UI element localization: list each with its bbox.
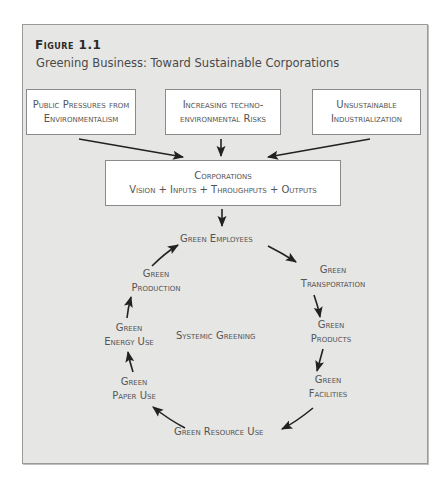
arrow-transportation-to-products bbox=[314, 295, 320, 317]
arrow-employees-to-transportation bbox=[268, 246, 296, 262]
arrow-energy-use-to-production bbox=[127, 297, 131, 318]
arrow-production-to-employees bbox=[152, 245, 178, 266]
arrow-paper-use-to-energy-use bbox=[128, 352, 133, 372]
arrow-public-to-corporations bbox=[79, 139, 183, 157]
arrow-layer bbox=[0, 0, 446, 484]
arrow-industrialization-to-corporations bbox=[268, 139, 370, 157]
arrow-products-to-facilities bbox=[317, 349, 323, 371]
arrow-facilities-to-resource-use bbox=[282, 408, 313, 429]
arrow-resource-use-to-paper-use bbox=[153, 407, 185, 428]
